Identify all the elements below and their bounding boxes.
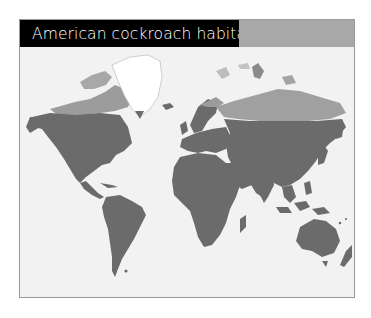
severnaya (282, 75, 296, 85)
caribbean (100, 183, 118, 188)
new-zealand (340, 245, 352, 267)
arctic-canada (50, 85, 132, 117)
novaya-zemlya (252, 63, 264, 79)
falklands (124, 269, 127, 272)
svalbard (216, 67, 230, 79)
southeast-asia (282, 185, 296, 203)
pacific-island-2 (345, 218, 347, 220)
indonesia-1 (276, 207, 292, 213)
alaska (26, 117, 42, 133)
india (256, 175, 274, 203)
south-america (102, 195, 146, 277)
madagascar (240, 215, 246, 233)
world-map (20, 47, 354, 297)
tasmania (322, 261, 328, 267)
australia (296, 219, 340, 257)
map-figure-frame: American cockroach habitats (19, 19, 355, 298)
siberia-north (216, 89, 346, 121)
pacific-island-1 (339, 222, 342, 225)
new-guinea (312, 207, 330, 215)
uk (180, 121, 188, 135)
title-bar: American cockroach habitats (20, 20, 239, 47)
north-america (32, 113, 132, 183)
indonesia-2 (294, 201, 310, 211)
philippines (304, 181, 312, 195)
title-accent-bar (239, 20, 354, 47)
arctic-islands (80, 71, 112, 89)
scandinavia-north (200, 97, 224, 107)
world-map-svg (20, 47, 354, 297)
figure-title: American cockroach habitats (20, 25, 260, 43)
iceland (162, 103, 174, 110)
franz-josef (238, 63, 250, 69)
central-america (80, 181, 104, 199)
